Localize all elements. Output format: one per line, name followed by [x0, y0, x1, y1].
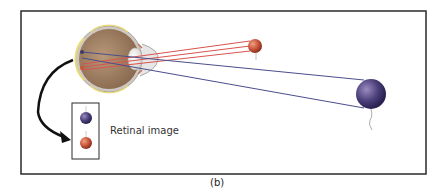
- eye-retinal-image-diagram: Retinal image (b): [0, 0, 446, 194]
- retina-near-image-dot: [80, 66, 84, 70]
- figure-caption: (b): [210, 177, 224, 188]
- retina-far-image-dot: [80, 50, 84, 54]
- retinal-image-inset: [72, 103, 99, 159]
- retinal-image-label: Retinal image: [110, 125, 179, 136]
